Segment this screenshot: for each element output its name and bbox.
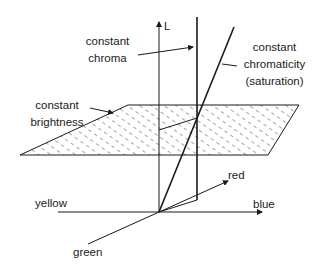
label-line: chromaticity: [237, 57, 312, 71]
l-axis-label: L: [164, 19, 170, 33]
chroma-pointer: [138, 47, 193, 55]
label-line: brightness: [28, 115, 86, 129]
blue-axis-label: blue: [253, 197, 275, 211]
constant-chroma-label: constant chroma: [80, 34, 135, 65]
brightness-pointer: [90, 108, 113, 113]
constant-chromaticity-label: constant chromaticity (saturation): [237, 40, 312, 88]
green-axis-label: green: [73, 245, 102, 259]
base-to-chroma-line: [159, 200, 197, 212]
color-space-diagram: L constant chroma constant chromaticity …: [0, 0, 317, 271]
constant-brightness-label: constant brightness: [28, 98, 86, 129]
label-line: constant: [237, 40, 312, 54]
yellow-axis-label: yellow: [35, 196, 67, 210]
label-line: (saturation): [237, 74, 312, 88]
red-axis-label: red: [228, 168, 245, 182]
label-line: constant: [80, 34, 135, 48]
label-line: chroma: [80, 51, 135, 65]
chromaticity-pointer: [222, 64, 237, 66]
label-line: constant: [28, 98, 86, 112]
